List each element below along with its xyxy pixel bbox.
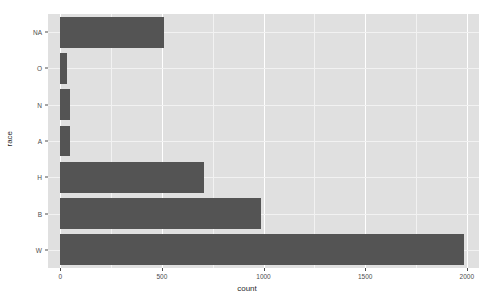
x-tick-label-1500: 1500 xyxy=(358,273,372,280)
bar-w xyxy=(60,234,464,265)
y-tick-label-b: B xyxy=(38,210,42,217)
y-tick-label-w: W xyxy=(36,246,42,253)
gridline-major-y xyxy=(48,68,479,69)
plot-panel xyxy=(48,14,479,268)
bar-h xyxy=(60,162,204,193)
y-tick-mark xyxy=(45,32,48,33)
x-tick-label-500: 500 xyxy=(156,273,167,280)
bar-chart: NAONAHBW 0500100015002000 count race xyxy=(0,0,494,304)
y-tick-mark xyxy=(45,177,48,178)
bar-na xyxy=(60,17,164,48)
bar-a xyxy=(60,126,70,157)
y-tick-label-na: NA xyxy=(33,29,42,36)
x-axis-title: count xyxy=(0,284,494,293)
x-tick-label-2000: 2000 xyxy=(460,273,474,280)
gridline-major-y xyxy=(48,105,479,106)
y-axis-title: race xyxy=(5,133,14,147)
y-tick-mark xyxy=(45,249,48,250)
y-tick-mark xyxy=(45,104,48,105)
y-tick-mark xyxy=(45,141,48,142)
x-tick-mark xyxy=(264,268,265,271)
x-tick-mark xyxy=(60,268,61,271)
x-tick-label-1000: 1000 xyxy=(256,273,270,280)
bar-b xyxy=(60,198,261,229)
y-tick-label-o: O xyxy=(37,65,42,72)
x-tick-mark xyxy=(467,268,468,271)
x-tick-mark xyxy=(365,268,366,271)
y-tick-mark xyxy=(45,213,48,214)
y-tick-label-a: A xyxy=(38,138,42,145)
y-tick-label-h: H xyxy=(37,174,42,181)
x-tick-label-0: 0 xyxy=(58,273,62,280)
bar-o xyxy=(60,53,67,84)
bar-n xyxy=(60,89,70,120)
x-tick-mark xyxy=(162,268,163,271)
y-tick-label-n: N xyxy=(37,101,42,108)
gridline-major-y xyxy=(48,141,479,142)
y-tick-mark xyxy=(45,68,48,69)
